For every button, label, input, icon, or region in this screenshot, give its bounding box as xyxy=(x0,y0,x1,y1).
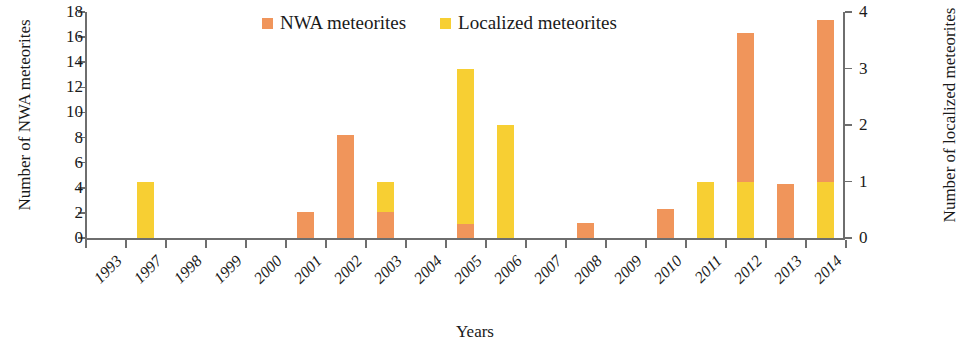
right-tick-label: 2 xyxy=(859,116,899,133)
bar-column[interactable] xyxy=(377,182,394,239)
bar-column[interactable] xyxy=(817,20,834,238)
left-tick-label: 12 xyxy=(43,78,83,95)
x-tick-mark xyxy=(165,240,167,248)
bar-column[interactable] xyxy=(337,135,354,238)
bar-column[interactable] xyxy=(297,212,314,238)
left-tick-label: 10 xyxy=(43,103,83,120)
x-tick-mark xyxy=(605,240,607,248)
left-tick-label: 18 xyxy=(43,3,83,20)
bar-segment-localized xyxy=(457,69,474,239)
right-tick-mark xyxy=(845,11,852,13)
x-tick-mark xyxy=(445,240,447,248)
bar-segment-nwa xyxy=(377,212,394,238)
left-tick-label: 2 xyxy=(43,204,83,221)
bar-segment-nwa xyxy=(297,212,314,238)
x-tick-mark xyxy=(685,240,687,248)
left-tick-label: 16 xyxy=(43,28,83,45)
y-axis-left-title: Number of NWA meteorites xyxy=(14,0,36,240)
bar-segment-nwa xyxy=(657,209,674,238)
x-tick-mark xyxy=(805,240,807,248)
bar-segment-nwa xyxy=(777,184,794,238)
x-axis-title: Years xyxy=(0,322,950,342)
bar-segment-localized xyxy=(737,182,754,239)
left-axis-line xyxy=(85,12,87,238)
x-tick-mark xyxy=(725,240,727,248)
right-tick-label: 1 xyxy=(859,173,899,190)
x-tick-mark xyxy=(765,240,767,248)
bar-column[interactable] xyxy=(777,184,794,238)
right-tick-mark xyxy=(845,124,852,126)
y-axis-right-title: Number of localized meteorites xyxy=(939,0,960,240)
bar-column[interactable] xyxy=(457,69,474,239)
left-tick-label: 6 xyxy=(43,154,83,171)
bar-column[interactable] xyxy=(577,223,594,238)
x-tick-mark xyxy=(525,240,527,248)
x-tick-mark xyxy=(405,240,407,248)
left-tick-label: 14 xyxy=(43,53,83,70)
bar-segment-localized xyxy=(497,125,514,238)
bar-segment-nwa xyxy=(337,135,354,238)
x-tick-mark xyxy=(245,240,247,248)
x-tick-mark xyxy=(365,240,367,248)
right-tick-mark xyxy=(845,181,852,183)
x-tick-mark xyxy=(645,240,647,248)
bar-segment-nwa xyxy=(577,223,594,238)
right-tick-mark xyxy=(845,68,852,70)
bar-segment-nwa xyxy=(457,224,474,238)
x-tick-mark xyxy=(565,240,567,248)
left-tick-label: 0 xyxy=(43,229,83,246)
bar-column[interactable] xyxy=(497,125,514,238)
right-tick-label: 4 xyxy=(859,3,899,20)
x-tick-mark xyxy=(325,240,327,248)
x-tick-mark xyxy=(125,240,127,248)
x-tick-mark xyxy=(845,240,847,248)
bottom-axis-line xyxy=(85,238,845,240)
bar-segment-localized xyxy=(817,182,834,239)
bar-column[interactable] xyxy=(137,182,154,239)
left-tick-label: 4 xyxy=(43,179,83,196)
plot-area: 024681012141618 01234 199319971998199920… xyxy=(85,12,845,238)
right-tick-label: 3 xyxy=(859,60,899,77)
bar-segment-localized xyxy=(697,182,714,239)
bar-column[interactable] xyxy=(697,182,714,239)
bar-segment-localized xyxy=(137,182,154,239)
x-tick-mark xyxy=(485,240,487,248)
x-tick-mark xyxy=(85,240,87,248)
bar-column[interactable] xyxy=(737,33,754,238)
left-tick-label: 8 xyxy=(43,129,83,146)
right-tick-label: 0 xyxy=(859,229,899,246)
x-tick-mark xyxy=(205,240,207,248)
bar-column[interactable] xyxy=(657,209,674,238)
right-tick-mark xyxy=(845,237,852,239)
x-tick-mark xyxy=(285,240,287,248)
